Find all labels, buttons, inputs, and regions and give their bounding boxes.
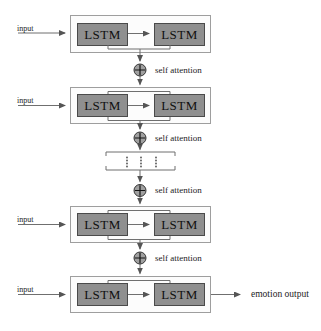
vertical-ellipsis-icon [126,157,157,168]
lstm-cell: LSTM [154,213,205,236]
lstm-layer-box-4: LSTM LSTM [70,276,211,313]
plus-circle-icon [134,252,146,264]
input-label-2: input [17,95,33,106]
lstm-cell: LSTM [77,213,128,236]
lstm-cell: LSTM [77,283,128,306]
self-attention-label-1: self attention [155,65,202,76]
plus-circle-icon [134,185,146,197]
self-attention-label-2: self attention [155,133,202,144]
input-label-3: input [17,214,33,225]
lstm-layer-box-3: LSTM LSTM [70,206,211,243]
lstm-cell: LSTM [154,283,205,306]
lstm-layer-box-1: LSTM LSTM [70,15,211,53]
emotion-output-label: emotion output [251,289,309,300]
lstm-attention-diagram: LSTM LSTM LSTM LSTM LSTM LSTM LSTM LSTM [0,0,321,331]
input-label-4: input [17,284,33,295]
plus-circle-icon [134,64,146,76]
lstm-cell: LSTM [154,23,205,46]
lstm-layer-box-2: LSTM LSTM [70,87,211,124]
plus-circle-icon [134,132,146,144]
ellipsis-box-top [106,152,175,156]
lstm-cell: LSTM [77,23,128,46]
self-attention-label-4: self attention [155,253,202,264]
lstm-cell: LSTM [154,94,205,117]
ellipsis-box-bottom [106,166,175,170]
input-label-1: input [17,23,33,34]
self-attention-label-3: self attention [155,185,202,196]
lstm-cell: LSTM [77,94,128,117]
